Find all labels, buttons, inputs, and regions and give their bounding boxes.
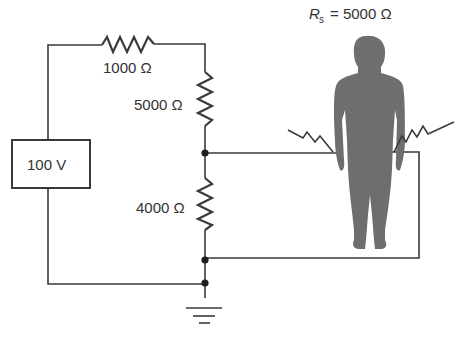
resistor-zigzag-icon xyxy=(102,37,154,52)
wire-left-top xyxy=(48,45,102,140)
resistor-1000: 1000 Ω xyxy=(102,37,154,76)
ground-icon xyxy=(186,308,222,323)
junction-dot-lower xyxy=(201,279,208,286)
resistor-label: 4000 Ω xyxy=(136,199,185,216)
voltage-source-label: 100 V xyxy=(27,156,66,173)
circuit-diagram: R s = 5000 Ω 1000 Ω 5000 Ω 4000 Ω 100 V xyxy=(0,0,460,339)
resistor-zigzag-icon xyxy=(198,72,212,126)
resistor-4000: 4000 Ω xyxy=(136,178,212,230)
body-resistance-label: R s = 5000 Ω xyxy=(309,5,392,25)
rs-value: = 5000 Ω xyxy=(330,5,392,22)
rs-subscript: s xyxy=(319,14,324,25)
resistor-label: 5000 Ω xyxy=(134,96,183,113)
resistor-5000: 5000 Ω xyxy=(134,72,212,126)
wire-top-right xyxy=(154,44,205,72)
junction-dot-upper xyxy=(201,149,208,156)
resistor-zigzag-icon xyxy=(198,178,212,230)
person-silhouette-icon xyxy=(334,36,405,249)
shock-left-icon xyxy=(288,130,333,152)
junction-dot-middle xyxy=(201,256,208,263)
resistor-label: 1000 Ω xyxy=(103,59,152,76)
voltage-source: 100 V xyxy=(12,140,90,188)
